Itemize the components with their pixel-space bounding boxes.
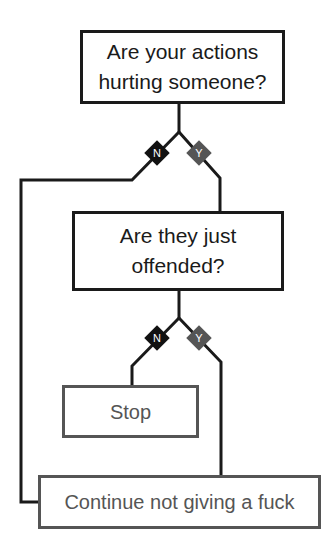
- no-branch-label: N: [144, 325, 170, 351]
- yes-branch-label: Y: [186, 140, 212, 166]
- yes-branch-label: Y: [186, 325, 212, 351]
- question-text-line2: offended?: [120, 251, 237, 281]
- outcome-box-stop: Stop: [62, 385, 199, 438]
- question-text-line1: Are they just: [120, 221, 237, 251]
- question-box-just-offended: Are they just offended?: [72, 211, 284, 291]
- question-text-line1: Are your actions: [98, 37, 266, 67]
- no-branch-label: N: [144, 140, 170, 166]
- outcome-text: Stop: [110, 399, 151, 425]
- question-text-line2: hurting someone?: [98, 67, 266, 97]
- question-box-hurting-someone: Are your actions hurting someone?: [80, 30, 285, 104]
- outcome-box-continue: Continue not giving a fuck: [38, 475, 321, 529]
- outcome-text: Continue not giving a fuck: [64, 489, 294, 515]
